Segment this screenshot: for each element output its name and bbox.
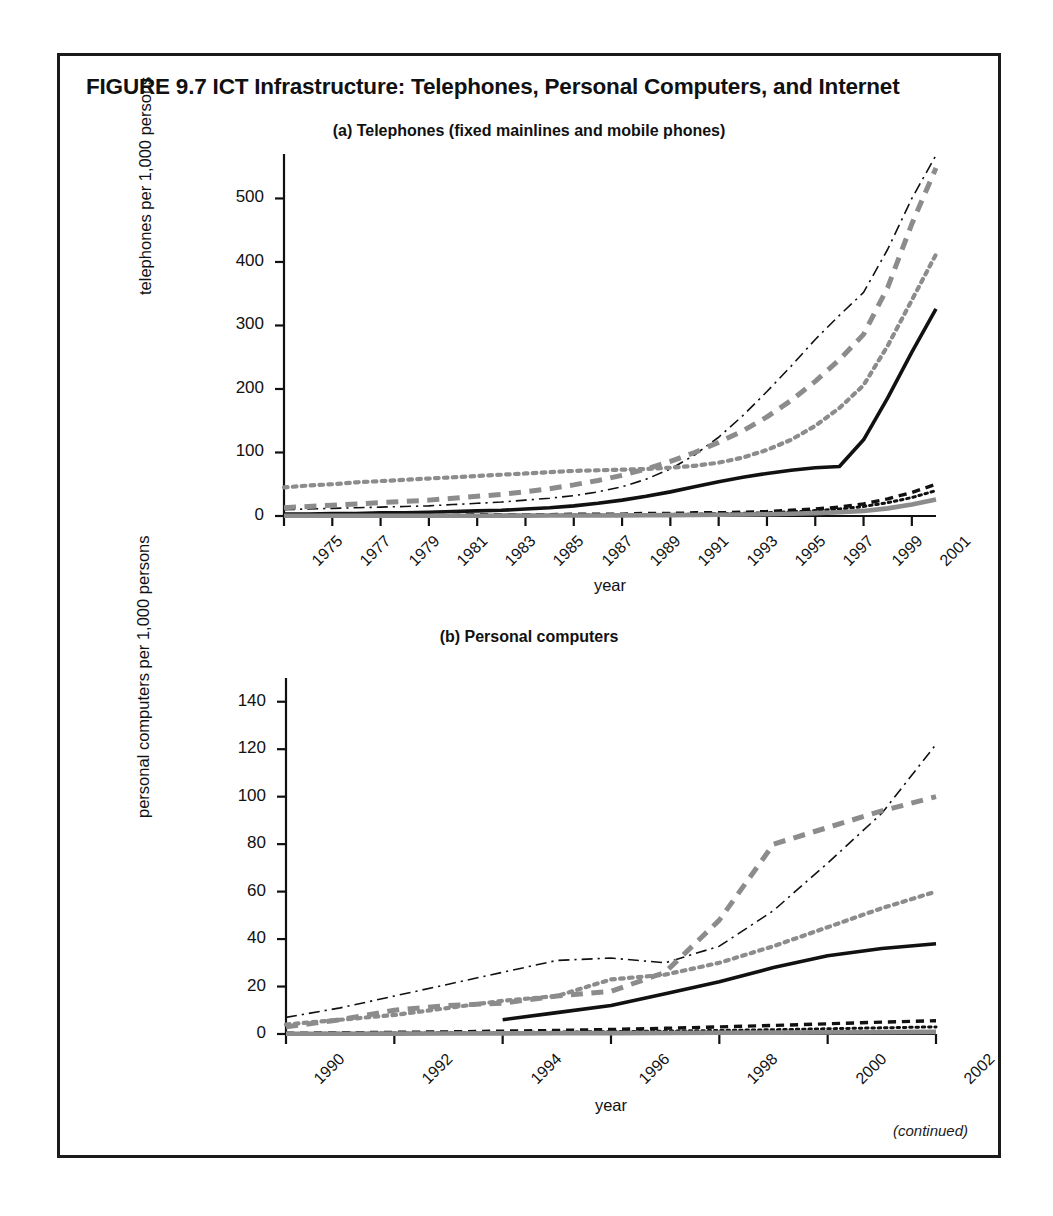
panel-b-x-axis-title: year — [286, 1096, 936, 1115]
y-tick-label: 100 — [214, 786, 266, 806]
y-tick-label: 0 — [212, 505, 264, 525]
panel-a-plot-area — [156, 144, 976, 564]
y-tick-label: 20 — [214, 976, 266, 996]
series-solid-thick-black — [503, 944, 936, 1020]
y-tick-label: 300 — [212, 314, 264, 334]
figure-frame: FIGURE 9.7 ICT Infrastructure: Telephone… — [57, 53, 1001, 1158]
panel-b-title: (b) Personal computers — [60, 628, 998, 646]
series-dashdot-thin-black — [284, 155, 936, 509]
y-tick-label: 400 — [212, 251, 264, 271]
y-tick-label: 80 — [214, 833, 266, 853]
panel-b-plot-area — [156, 648, 976, 1078]
y-tick-label: 500 — [212, 187, 264, 207]
panel-a-x-axis-title: year — [284, 576, 936, 595]
y-tick-label: 0 — [214, 1023, 266, 1043]
series-dashdot-thin-black — [286, 744, 936, 1017]
figure-title: FIGURE 9.7 ICT Infrastructure: Telephone… — [86, 74, 976, 100]
series-solid-thick-black — [284, 309, 936, 514]
y-tick-label: 100 — [212, 441, 264, 461]
panel-a-title: (a) Telephones (fixed mainlines and mobi… — [60, 122, 998, 140]
y-tick-label: 60 — [214, 881, 266, 901]
continued-note: (continued) — [893, 1122, 968, 1139]
y-tick-label: 140 — [214, 691, 266, 711]
y-tick-label: 40 — [214, 928, 266, 948]
y-tick-label: 120 — [214, 738, 266, 758]
series-solid-thick-gray-low — [286, 1032, 936, 1034]
series-dashed-thick-gray — [286, 797, 936, 1027]
panel-a-y-axis-title: telephones per 1,000 persons — [136, 77, 155, 295]
series-dotted-gray — [284, 254, 936, 487]
y-tick-label: 200 — [212, 378, 264, 398]
panel-b-y-axis-title: personal computers per 1,000 persons — [134, 535, 153, 818]
series-dashed-thick-gray — [284, 168, 936, 508]
